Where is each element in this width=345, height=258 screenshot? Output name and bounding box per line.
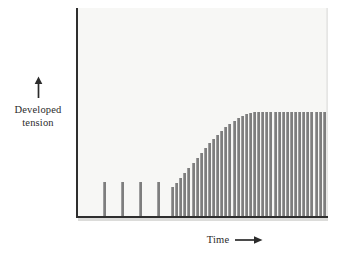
bar (208, 143, 211, 217)
bar (278, 112, 281, 217)
bar (290, 112, 293, 217)
bar (286, 112, 289, 217)
up-arrow-icon (33, 76, 44, 98)
bar (298, 112, 301, 217)
bar (192, 163, 195, 217)
bar (294, 112, 297, 217)
right-arrow-icon (235, 235, 263, 245)
bar (200, 153, 203, 217)
y-axis-label-group: Developed tension (0, 76, 76, 129)
bar (315, 112, 318, 217)
y-axis-line (76, 8, 78, 218)
bar (265, 112, 268, 217)
bar (228, 124, 231, 217)
bar (323, 112, 326, 217)
bar (233, 121, 236, 217)
bar (220, 131, 223, 217)
bar (245, 114, 248, 217)
bar (269, 112, 272, 217)
bar (249, 113, 252, 217)
bar (187, 168, 190, 217)
figure-container: Developed tension Time (0, 0, 345, 258)
bar (216, 135, 219, 217)
bar (261, 112, 264, 217)
y-axis-label-line2: tension (0, 117, 76, 130)
bar (103, 182, 106, 217)
bar (212, 139, 215, 217)
bar (302, 112, 305, 217)
bar (241, 116, 244, 217)
bar (257, 112, 260, 217)
bar (175, 183, 178, 217)
x-axis-shadow (78, 218, 328, 221)
bar (171, 187, 174, 217)
y-axis-label-line1: Developed (0, 104, 76, 117)
bar (224, 127, 227, 217)
bar (139, 182, 142, 217)
bar (306, 112, 309, 217)
x-axis-label-text: Time (207, 234, 229, 245)
bar (310, 112, 313, 217)
bar (204, 148, 207, 217)
bar (274, 112, 277, 217)
bar (121, 182, 124, 217)
bar (319, 112, 322, 217)
panel-right-edge (326, 8, 328, 218)
bar (253, 112, 256, 217)
y-axis-label-text: Developed tension (0, 104, 76, 129)
bar (282, 112, 285, 217)
bar (196, 158, 199, 217)
x-axis-label-group: Time (180, 234, 290, 245)
bar (179, 178, 182, 217)
bar (237, 118, 240, 217)
bar (157, 182, 160, 217)
bar (183, 173, 186, 217)
